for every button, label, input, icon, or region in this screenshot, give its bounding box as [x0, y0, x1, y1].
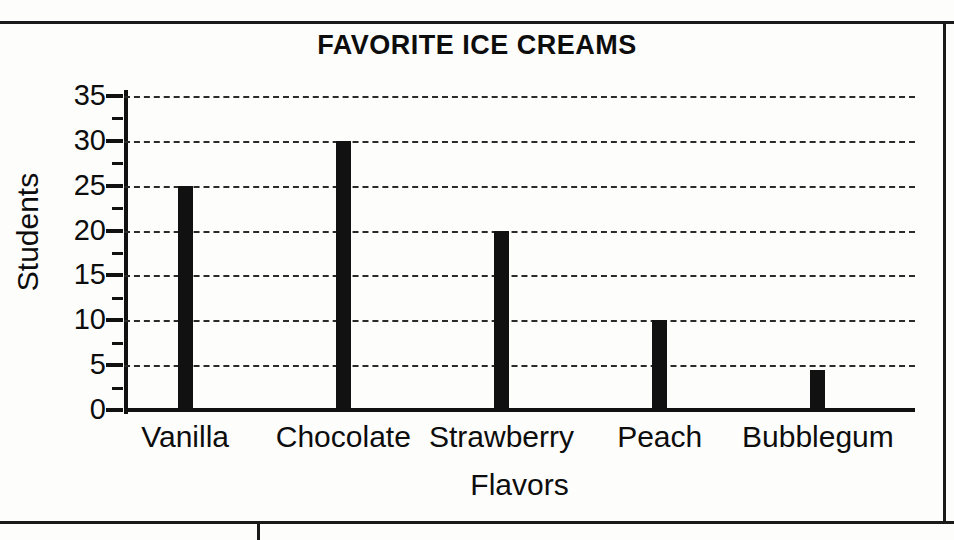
y-axis-minor-tick: [112, 117, 123, 120]
bar: [336, 141, 351, 410]
y-axis-major-tick: [106, 408, 123, 412]
y-axis-major-tick: [106, 363, 123, 367]
y-axis-major-tick: [106, 139, 123, 143]
y-axis-major-tick: [106, 229, 123, 233]
y-axis-tick-labels: 35302520151050: [42, 96, 106, 410]
y-axis-tick-label: 30: [46, 126, 106, 155]
bar: [178, 186, 193, 410]
gridline: [124, 186, 915, 188]
page-rule-bottom: [0, 521, 954, 524]
y-axis-major-tick: [106, 94, 123, 98]
page-rule-top: [0, 21, 954, 24]
y-axis-minor-tick: [112, 207, 123, 210]
gridline: [124, 320, 915, 322]
y-axis-minor-tick: [112, 297, 123, 300]
y-axis-major-tick: [106, 273, 123, 277]
plot-area: [124, 96, 915, 410]
gridline: [124, 275, 915, 277]
x-axis-category-label: Bubblegum: [708, 418, 928, 456]
y-axis-tick-label: 15: [46, 260, 106, 289]
gridline: [124, 231, 915, 233]
y-axis-minor-tick: [112, 342, 123, 345]
gridline: [124, 96, 915, 98]
page-rule-right: [943, 21, 946, 524]
gridline: [124, 365, 915, 367]
page-cell-divider: [257, 523, 260, 540]
y-axis-title: Students: [11, 122, 45, 342]
y-axis-minor-tick: [112, 162, 123, 165]
y-axis-major-tick: [106, 184, 123, 188]
y-axis-tick-label: 10: [46, 305, 106, 334]
x-axis-title: Flavors: [124, 468, 915, 502]
y-axis-tick-label: 35: [46, 81, 106, 110]
bar: [810, 370, 825, 410]
chart-page: FAVORITE ICE CREAMS 35302520151050 Vanil…: [0, 0, 954, 540]
y-axis-minor-tick: [112, 252, 123, 255]
bar: [494, 231, 509, 410]
y-axis-tick-label: 5: [46, 350, 106, 379]
x-axis-category-labels: VanillaChocolateStrawberryPeachBubblegum: [124, 418, 924, 464]
y-axis-tick-label: 20: [46, 216, 106, 245]
y-axis-major-tick: [106, 318, 123, 322]
bar: [652, 320, 667, 410]
y-axis-tick-label: 25: [46, 171, 106, 200]
chart-title: FAVORITE ICE CREAMS: [0, 30, 954, 61]
gridline: [124, 141, 915, 143]
y-axis-minor-tick: [112, 387, 123, 390]
